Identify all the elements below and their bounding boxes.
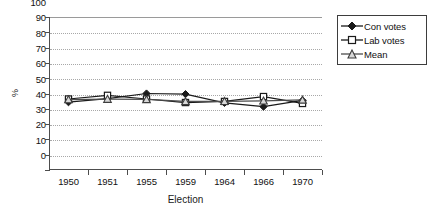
gridline — [50, 79, 322, 80]
x-axis-tick — [205, 170, 206, 175]
y-axis-tick-label: 20 — [20, 120, 46, 130]
y-axis-tick-label: 50 — [20, 75, 46, 85]
y-axis-tick — [45, 78, 50, 79]
y-axis-tick — [45, 48, 50, 49]
legend-key-open-square-icon — [340, 33, 364, 47]
x-axis-tick-label: 1951 — [86, 176, 130, 187]
y-axis-tick-label: 0 — [20, 151, 46, 161]
y-axis-tick — [45, 17, 50, 18]
x-axis-tick-label: 1964 — [203, 176, 247, 187]
y-axis-tick-label: 70 — [20, 44, 46, 54]
y-axis-tick — [45, 32, 50, 33]
y-axis-tick — [45, 94, 50, 95]
gridline — [50, 49, 322, 50]
x-axis-tick — [244, 170, 245, 175]
y-axis-tick-label: 30 — [20, 105, 46, 115]
y-axis-tick-label: 100 — [20, 0, 46, 8]
y-axis-tick — [45, 155, 50, 156]
plot-area — [49, 17, 322, 170]
line-chart: % 0102030405060708090100 Election Con vo… — [0, 0, 431, 218]
legend-label-con-votes: Con votes — [364, 21, 406, 32]
x-axis-tick — [166, 170, 167, 175]
x-axis-tick — [322, 170, 323, 175]
y-axis-tick — [45, 109, 50, 110]
legend-item-mean[interactable]: Mean — [340, 47, 423, 61]
legend-item-con-votes[interactable]: Con votes — [340, 19, 423, 33]
y-axis-tick — [45, 124, 50, 125]
legend-label-lab-votes: Lab votes — [364, 35, 404, 46]
y-axis-title: % — [10, 82, 20, 104]
gridline — [50, 95, 322, 96]
y-axis-tick — [45, 139, 50, 140]
chart-legend: Con votes Lab votes Mean — [337, 15, 427, 65]
x-axis-tick-label: 1950 — [47, 176, 91, 187]
x-axis-tick-label: 1955 — [125, 176, 169, 187]
x-axis-tick-label: 1966 — [242, 176, 286, 187]
legend-item-lab-votes[interactable]: Lab votes — [340, 33, 423, 47]
y-axis-tick — [45, 170, 50, 171]
gridline — [50, 125, 322, 126]
y-axis-tick-labels: 0102030405060708090100 — [20, 0, 46, 218]
x-axis-tick — [127, 170, 128, 175]
y-axis-tick — [45, 63, 50, 64]
x-axis-tick-label: 1970 — [281, 176, 325, 187]
legend-key-filled-diamond-icon — [340, 19, 364, 33]
gridline — [50, 33, 322, 34]
x-axis-tick — [88, 170, 89, 175]
legend-key-open-triangle-icon — [340, 47, 364, 61]
y-axis-tick-label: 80 — [20, 29, 46, 39]
y-axis-tick-label: 60 — [20, 59, 46, 69]
gridline — [50, 156, 322, 157]
x-axis-title: Election — [49, 194, 322, 206]
x-axis-tick-label: 1959 — [164, 176, 208, 187]
x-axis-tick — [283, 170, 284, 175]
gridline — [50, 140, 322, 141]
y-axis-tick-label: 90 — [20, 13, 46, 23]
gridline — [50, 64, 322, 65]
gridline — [50, 110, 322, 111]
y-axis-tick-label: 40 — [20, 90, 46, 100]
legend-label-mean: Mean — [364, 49, 387, 60]
y-axis-tick-label: 10 — [20, 136, 46, 146]
